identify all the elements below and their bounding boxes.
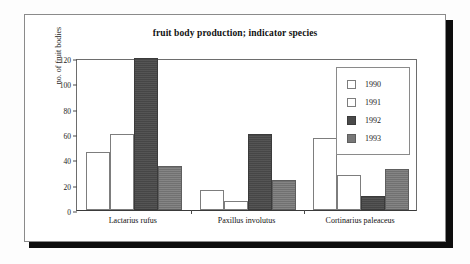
x-category-label: Lactarius rufus (76, 216, 190, 225)
legend-label: 1991 (365, 98, 381, 107)
legend-item-1990: 1990 (337, 75, 409, 93)
bar-lactarius-rufus-1991 (110, 134, 134, 210)
chart-title: fruit body production; indicator species (25, 28, 445, 38)
bar-cortinarius-paleaceus-1990 (313, 138, 337, 210)
x-category-label: Paxillus involutus (190, 216, 304, 225)
y-tick-mark (73, 60, 77, 61)
x-category-label: Cortinarius paleaceus (303, 216, 417, 225)
y-tick-mark (73, 161, 77, 162)
bar-paxillus-involutus-1991 (224, 201, 248, 210)
bar-cortinarius-paleaceus-1992 (361, 196, 385, 210)
chart-legend: 1990199119921993 (336, 67, 410, 155)
bar-paxillus-involutus-1992 (248, 134, 272, 210)
x-group-tick (304, 210, 305, 214)
legend-swatch-icon (347, 116, 356, 125)
legend-swatch-icon (347, 80, 356, 89)
y-tick-mark (73, 136, 77, 137)
y-tick-mark (73, 212, 77, 213)
bar-lactarius-rufus-1993 (158, 166, 182, 210)
scanned-page-background: fruit body production; indicator species… (0, 0, 470, 264)
bar-cortinarius-paleaceus-1993 (385, 169, 409, 210)
legend-label: 1993 (365, 134, 381, 143)
x-group-tick (191, 210, 192, 214)
legend-swatch-icon (347, 134, 356, 143)
bar-paxillus-involutus-1993 (272, 180, 296, 210)
legend-item-1993: 1993 (337, 129, 409, 147)
bar-cortinarius-paleaceus-1991 (337, 175, 361, 210)
y-tick-mark (73, 85, 77, 86)
bar-lactarius-rufus-1990 (86, 152, 110, 210)
bar-lactarius-rufus-1992 (134, 58, 158, 210)
legend-item-1991: 1991 (337, 93, 409, 111)
legend-label: 1990 (365, 80, 381, 89)
chart-figure-frame: fruit body production; indicator species… (24, 14, 446, 242)
y-tick-mark (73, 110, 77, 111)
y-tick-mark (73, 186, 77, 187)
legend-item-1992: 1992 (337, 111, 409, 129)
legend-swatch-icon (347, 98, 356, 107)
bar-paxillus-involutus-1990 (200, 190, 224, 210)
legend-label: 1992 (365, 116, 381, 125)
